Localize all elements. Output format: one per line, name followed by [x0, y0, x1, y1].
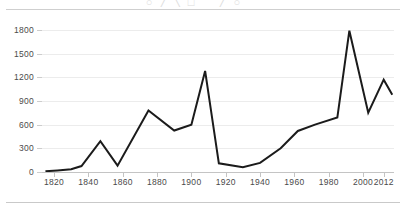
y-axis-label-300: 300	[2, 143, 34, 153]
y-axis-label-1500: 1500	[2, 49, 34, 59]
plot-area	[42, 22, 394, 172]
x-axis-line	[42, 172, 394, 173]
y-axis-label-0: 0	[2, 167, 34, 177]
series-path-1	[45, 31, 392, 172]
x-axis-label-2012: 2012	[364, 177, 404, 187]
bottom-divider	[6, 202, 400, 203]
chart-figure: ○ ╱ ╲ □ ⌒ ╱ ○ ⌒ 0300600900120015001800 1…	[0, 0, 406, 213]
y-axis-label-600: 600	[2, 120, 34, 130]
top-divider	[6, 9, 400, 10]
y-axis-label-1200: 1200	[2, 72, 34, 82]
y-axis-label-1800: 1800	[2, 25, 34, 35]
y-axis-label-900: 900	[2, 96, 34, 106]
page-title: ○ ╱ ╲ □ ⌒ ╱ ○ ⌒	[0, 0, 406, 7]
series-line-chart	[42, 22, 394, 172]
